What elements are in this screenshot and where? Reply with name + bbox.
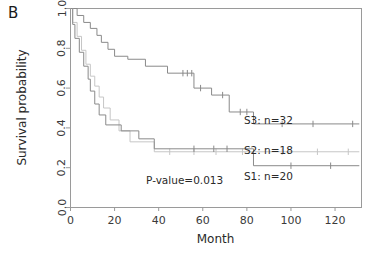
km-curve-s2 (71, 9, 360, 152)
chart-figure: B P-value=0.013S3: n=32S2: n=18S1: n=20 … (0, 0, 378, 259)
km-curve-s3 (71, 9, 360, 124)
km-curve-s1 (71, 9, 360, 166)
x-tick-label-5: 100 (280, 214, 301, 227)
y-tick-label-5: 1.0 (56, 0, 69, 17)
x-tick-label-6: 120 (325, 214, 346, 227)
annotation-s3-label: S3: n=32 (244, 114, 293, 126)
survival-plot: P-value=0.013S3: n=32S2: n=18S1: n=20 0.… (0, 0, 378, 259)
x-tick-label-4: 80 (240, 214, 254, 227)
x-axis-title: Month (197, 232, 235, 246)
annotations-layer: P-value=0.013S3: n=32S2: n=18S1: n=20 (146, 114, 293, 186)
x-tick-label-0: 0 (67, 214, 74, 227)
y-tick-label-2: 0.4 (56, 119, 69, 136)
y-axis-title: Survival probability (15, 49, 29, 165)
x-tick-label-3: 60 (196, 214, 210, 227)
x-tick-label-2: 40 (152, 214, 166, 227)
axis-labels-layer: 0.00.20.40.60.81.0020406080100120MonthSu… (15, 0, 346, 246)
x-tick-label-1: 20 (108, 214, 122, 227)
annotation-s1-label: S1: n=20 (244, 170, 293, 182)
annotation-p-value: P-value=0.013 (146, 174, 223, 186)
annotation-s2-label: S2: n=18 (244, 144, 293, 156)
y-tick-label-3: 0.6 (56, 79, 69, 97)
km-curves-layer (71, 9, 360, 169)
y-tick-label-1: 0.2 (56, 159, 69, 177)
y-tick-label-4: 0.8 (56, 40, 69, 58)
